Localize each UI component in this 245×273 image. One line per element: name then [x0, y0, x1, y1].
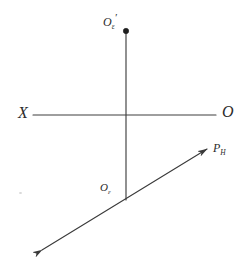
- scan-artifact-speck: [19, 192, 22, 194]
- label-oc-prime-mark: ′: [115, 11, 117, 23]
- label-x-text: X: [18, 104, 28, 121]
- figure-canvas: [0, 0, 245, 273]
- label-ph-subscript: H: [220, 148, 225, 157]
- label-ph-trace: PH: [213, 142, 226, 157]
- horizontal-trace-line-ph: [42, 149, 207, 250]
- label-oc-subscript: ε: [108, 188, 111, 195]
- label-oc-prime: Oε′: [103, 12, 117, 31]
- label-oc-prime-subscript: ε: [112, 22, 115, 31]
- geometry-figure: X O Oε′ Oε PH: [0, 0, 245, 273]
- label-oc-prime-base: O: [103, 15, 112, 29]
- label-o-text: O: [222, 103, 234, 120]
- label-x-axis: X: [18, 105, 28, 121]
- label-oc-base: O: [100, 181, 108, 193]
- label-origin-o: O: [222, 104, 234, 120]
- point-marker-oc-prime: [123, 28, 128, 33]
- label-oc: Oε: [100, 182, 111, 196]
